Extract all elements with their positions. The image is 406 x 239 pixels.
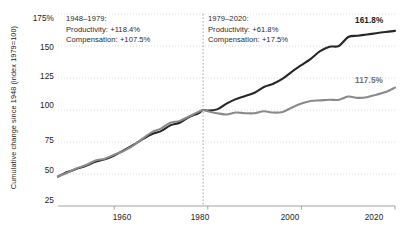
x-tick-2020: 2020 <box>354 213 394 222</box>
y-tick-50: 50 <box>18 166 54 175</box>
y-tick-75: 75 <box>18 136 54 145</box>
chart-container: Cumulative change since 1948 (index 1979… <box>0 0 406 239</box>
axis-lines <box>58 206 395 210</box>
data-lines <box>58 31 395 177</box>
gridlines <box>58 14 395 174</box>
y-tick-175: 175% <box>18 14 54 23</box>
y-tick-125: 125 <box>18 72 54 81</box>
x-tick-2000: 2000 <box>270 213 310 222</box>
y-tick-150: 150 <box>18 43 54 52</box>
y-axis-tick-labels: 175% 150 125 100 75 50 25 <box>14 0 54 239</box>
plot-area <box>58 14 395 206</box>
x-tick-1960: 1960 <box>102 213 142 222</box>
y-tick-25: 25 <box>18 196 54 205</box>
x-tick-1980: 1980 <box>180 213 220 222</box>
y-tick-100: 100 <box>18 101 54 110</box>
chart-svg <box>58 14 395 206</box>
